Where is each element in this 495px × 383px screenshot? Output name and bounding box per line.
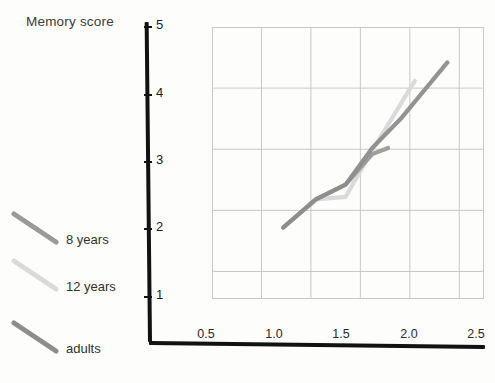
y-axis-line <box>145 22 152 342</box>
y-tick-4 <box>144 94 152 96</box>
legend-swatch-12-years <box>10 257 62 293</box>
legend-item-8-years[interactable]: 8 years <box>8 208 138 254</box>
y-tick-label-4: 4 <box>156 85 163 100</box>
x-tick-label-1-5: 1.5 <box>332 327 349 341</box>
legend-label-adults: adults <box>66 341 101 356</box>
y-tick-label-2: 2 <box>156 219 163 234</box>
y-tick-label-1: 1 <box>156 287 163 302</box>
chart-figure: Memory score 5 4 3 2 1 0.5 1.0 1.5 2.0 2… <box>0 0 495 383</box>
y-tick-2 <box>144 228 152 230</box>
y-tick-5 <box>144 26 152 28</box>
legend-item-12-years[interactable]: 12 years <box>8 255 138 301</box>
y-tick-1 <box>144 296 152 298</box>
series-line <box>283 81 415 228</box>
series-line <box>283 62 447 227</box>
legend-label-12-years: 12 years <box>66 279 116 294</box>
x-tick-label-2-0: 2.0 <box>400 327 417 341</box>
plot-area <box>212 27 484 299</box>
plot-svg <box>212 27 484 299</box>
legend-item-adults[interactable]: adults <box>8 317 138 363</box>
y-tick-3 <box>144 161 152 163</box>
legend-label-8-years: 8 years <box>66 232 109 247</box>
x-axis-line <box>149 341 485 349</box>
legend-swatch-8-years <box>10 210 62 246</box>
x-tick-label-0-5: 0.5 <box>197 327 214 341</box>
x-tick-label-2-5: 2.5 <box>467 327 484 341</box>
chart-title: Memory score <box>26 14 114 29</box>
y-tick-label-5: 5 <box>156 17 163 32</box>
legend-swatch-adults <box>10 319 62 355</box>
x-tick-label-1-0: 1.0 <box>265 327 282 341</box>
series-lines <box>283 62 447 227</box>
y-tick-label-3: 3 <box>156 152 163 167</box>
